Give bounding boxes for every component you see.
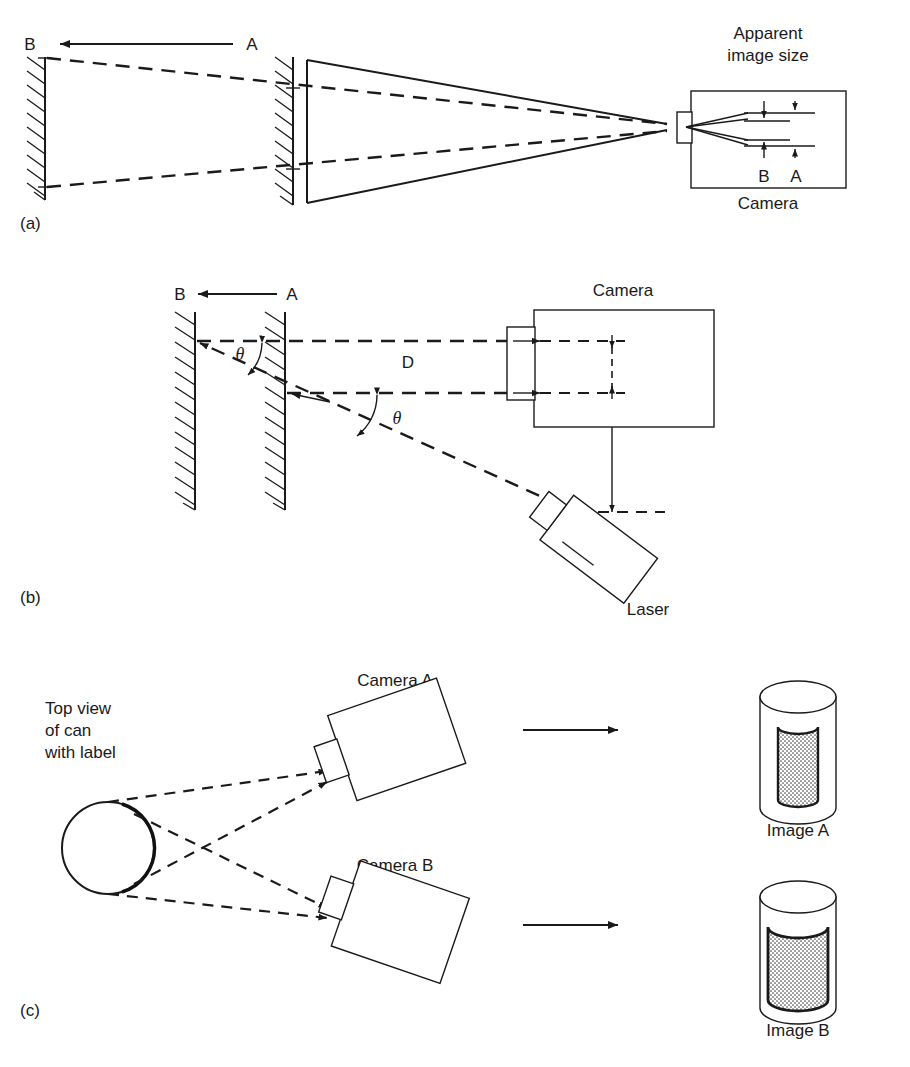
panel-b-label-b: B: [174, 285, 185, 304]
technical-figure: B A: [0, 0, 910, 1067]
apparent-image-size-line2: image size: [727, 46, 808, 65]
wall-b: [27, 57, 52, 200]
panel-c: Top view of can with label Camera A: [20, 671, 836, 1040]
panel-b: B A: [20, 281, 714, 619]
panel-a: B A: [20, 24, 846, 233]
camera-a-image-label-a: A: [790, 167, 802, 186]
camera-b-body: [310, 853, 470, 983]
image-b-caption: Image B: [766, 1021, 829, 1040]
panel-b-id: (b): [20, 588, 41, 607]
panel-b-theta-upper-label: θ: [236, 344, 245, 364]
camera-a-image-label-b: B: [758, 167, 769, 186]
ray-lines-from-b: [47, 58, 667, 187]
panel-b-laser: [522, 482, 657, 603]
panel-c-topview-line2: of can: [45, 721, 91, 740]
image-a-cylinder: [760, 681, 836, 824]
panel-c-id: (c): [20, 1001, 40, 1020]
wall-a-hatching: [275, 57, 293, 205]
panel-a-label-b: B: [24, 35, 35, 54]
image-b-cylinder: [760, 881, 836, 1024]
panel-b-wall-b-hatching: [175, 312, 195, 510]
camera-a-body: [306, 678, 466, 808]
panel-b-theta-lower-label: θ: [393, 408, 402, 428]
figure-root: B A: [0, 0, 910, 1067]
field-of-view-solid-cone: [307, 60, 667, 203]
panel-b-laser-caption: Laser: [627, 600, 670, 619]
panel-b-wall-b: [175, 312, 195, 510]
camera-a: B A: [677, 91, 846, 188]
image-a-caption: Image A: [767, 821, 830, 840]
wall-b-hatching: [27, 57, 45, 200]
panel-b-distance-label-d: D: [402, 353, 414, 372]
panel-b-camera: [507, 310, 714, 427]
wall-a: [275, 57, 300, 205]
panel-b-sight-lines: [197, 341, 545, 393]
panel-a-id: (a): [20, 214, 41, 233]
panel-c-topview-line3: with label: [44, 743, 116, 762]
camera-a-caption: Camera: [738, 194, 799, 213]
apparent-image-size-line1: Apparent: [734, 24, 803, 43]
panel-c-topview-line1: Top view: [45, 699, 112, 718]
panel-a-label-a: A: [246, 35, 258, 54]
panel-b-camera-caption: Camera: [593, 281, 654, 300]
panel-b-label-a: A: [286, 285, 298, 304]
